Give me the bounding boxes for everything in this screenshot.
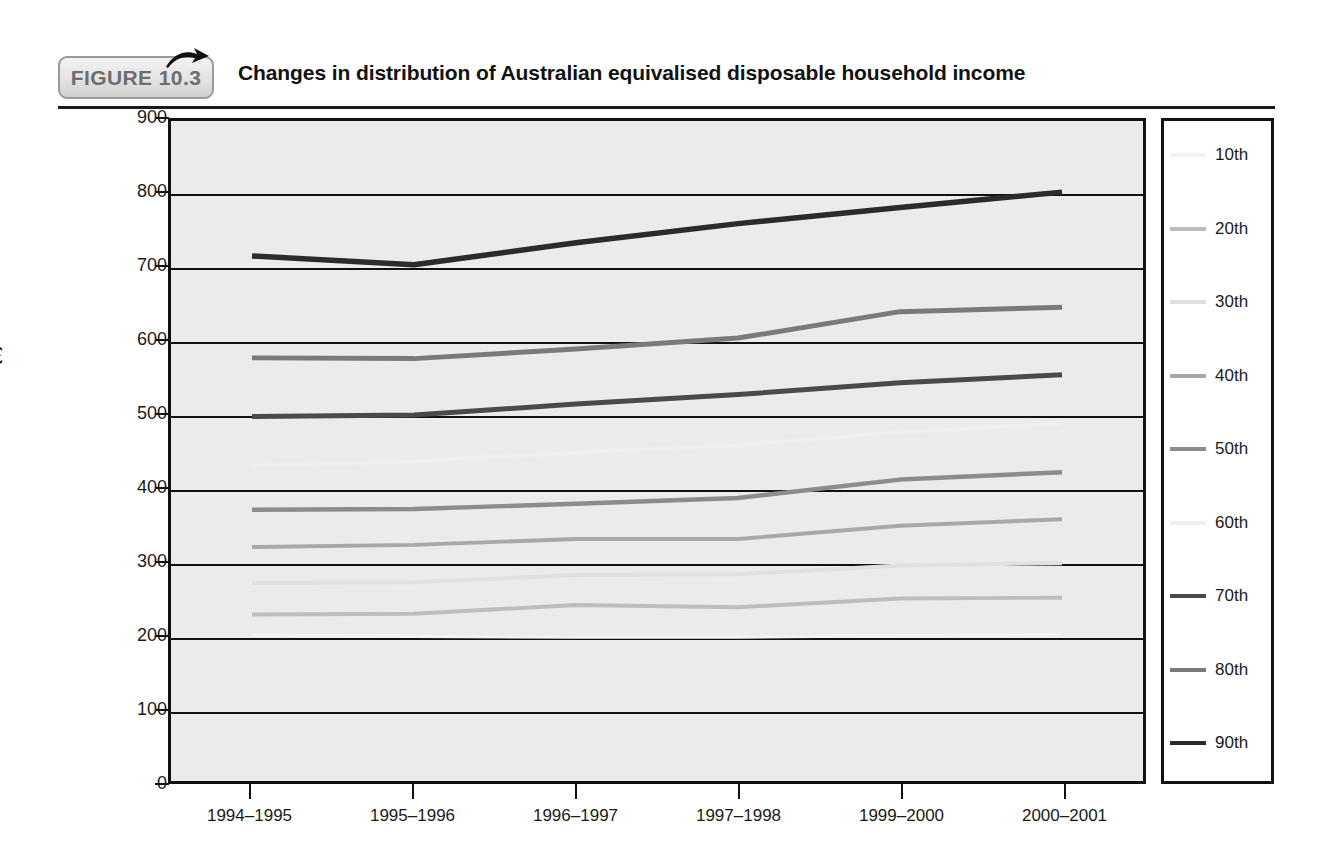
- series-line-60th: [252, 424, 1062, 466]
- x-tick-label: 1997–1998: [659, 806, 819, 826]
- chart-plot-area: [168, 118, 1146, 784]
- legend-item-60th[interactable]: 60th: [1164, 512, 1271, 534]
- legend-swatch-50th: [1170, 447, 1206, 451]
- x-tick-label: 1996–1997: [496, 806, 656, 826]
- legend-item-10th[interactable]: 10th: [1164, 144, 1271, 166]
- x-tick-label: 2000–2001: [985, 806, 1145, 826]
- figure-header: FIGURE 10.3 Changes in distribution of A…: [58, 47, 1273, 109]
- legend-item-30th[interactable]: 30th: [1164, 291, 1271, 313]
- series-line-50th: [252, 472, 1062, 509]
- x-tick-mark: [738, 784, 740, 799]
- legend-swatch-10th: [1170, 153, 1206, 157]
- legend-label: 10th: [1215, 145, 1248, 165]
- legend-swatch-80th: [1170, 668, 1206, 672]
- legend-item-20th[interactable]: 20th: [1164, 218, 1271, 240]
- x-tick-label: 1994–1995: [170, 806, 330, 826]
- y-tick-label: 100: [107, 699, 167, 720]
- series-line-70th: [252, 375, 1062, 417]
- y-axis-title: Income ($): [0, 345, 4, 430]
- legend-item-40th[interactable]: 40th: [1164, 365, 1271, 387]
- arrow-right-icon: [164, 47, 210, 71]
- y-tick-label: 300: [107, 551, 167, 572]
- header-divider: [58, 106, 1275, 109]
- legend-item-80th[interactable]: 80th: [1164, 659, 1271, 681]
- legend-item-70th[interactable]: 70th: [1164, 585, 1271, 607]
- series-line-40th: [252, 519, 1062, 547]
- y-tick-label: 400: [107, 477, 167, 498]
- legend-label: 80th: [1215, 660, 1248, 680]
- y-tick-label: 800: [107, 181, 167, 202]
- legend-swatch-90th: [1170, 741, 1206, 745]
- x-tick-mark: [575, 784, 577, 799]
- legend-swatch-60th: [1170, 521, 1206, 525]
- x-tick-mark: [249, 784, 251, 799]
- legend-item-50th[interactable]: 50th: [1164, 438, 1271, 460]
- legend-label: 90th: [1215, 733, 1248, 753]
- figure-title: Changes in distribution of Australian eq…: [238, 61, 1025, 85]
- y-tick-label: 200: [107, 625, 167, 646]
- legend-label: 50th: [1215, 439, 1248, 459]
- chart-legend: 10th20th30th40th50th60th70th80th90th: [1161, 118, 1274, 784]
- legend-swatch-70th: [1170, 594, 1206, 598]
- x-tick-label: 1999–2000: [822, 806, 982, 826]
- y-tick-label: 500: [107, 403, 167, 424]
- series-lines: [171, 121, 1143, 781]
- y-tick-label: 600: [107, 329, 167, 350]
- x-tick-mark: [412, 784, 414, 799]
- legend-swatch-40th: [1170, 374, 1206, 378]
- x-tick-mark: [1064, 784, 1066, 799]
- x-tick-label: 1995–1996: [333, 806, 493, 826]
- series-line-20th: [252, 598, 1062, 615]
- legend-swatch-20th: [1170, 227, 1206, 231]
- legend-label: 40th: [1215, 366, 1248, 386]
- y-tick-label: 700: [107, 255, 167, 276]
- series-line-90th: [252, 192, 1062, 265]
- y-tick-label: 900: [107, 107, 167, 128]
- series-line-10th: [252, 634, 1062, 637]
- legend-label: 70th: [1215, 586, 1248, 606]
- legend-label: 20th: [1215, 219, 1248, 239]
- legend-label: 30th: [1215, 292, 1248, 312]
- legend-label: 60th: [1215, 513, 1248, 533]
- series-line-30th: [252, 563, 1062, 583]
- legend-item-90th[interactable]: 90th: [1164, 732, 1271, 754]
- y-tick-label: 0: [107, 773, 167, 794]
- x-tick-mark: [901, 784, 903, 799]
- legend-swatch-30th: [1170, 300, 1206, 304]
- series-line-80th: [252, 307, 1062, 358]
